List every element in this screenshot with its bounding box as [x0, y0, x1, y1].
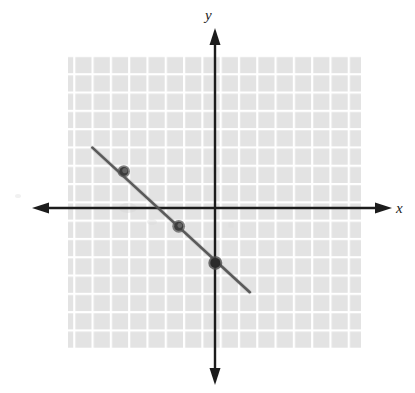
y-axis-top-arrowhead [210, 28, 221, 45]
x-axis-right-arrowhead [375, 203, 392, 214]
graph-canvas [0, 0, 415, 393]
data-point-marker [208, 256, 222, 270]
data-point-marker [118, 165, 130, 177]
coordinate-plane-figure: y x [0, 0, 415, 393]
y-axis-label: y [205, 8, 212, 23]
data-point-marker [172, 220, 185, 233]
x-axis-left-arrowhead [32, 203, 49, 214]
x-axis-label: x [396, 201, 403, 216]
y-axis-bottom-arrowhead [210, 368, 221, 385]
